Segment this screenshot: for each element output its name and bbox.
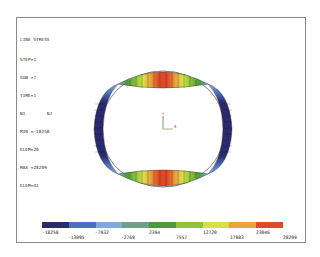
legend-tick: -13095 [68, 235, 85, 240]
legend-tick: 28209 [283, 235, 297, 240]
legend-seg-9 [256, 222, 283, 228]
legend-seg-1 [42, 222, 69, 228]
legend-tick: -2769 [121, 235, 135, 240]
triad-y-label: Y [162, 112, 165, 116]
legend-tick: 17883 [230, 235, 244, 240]
left-compression-band [94, 84, 118, 174]
ring-stress-plot: Y X [0, 0, 320, 257]
bottom-tension-band [118, 170, 208, 186]
triad-x-label: X [174, 124, 177, 129]
contour-legend-bar [42, 222, 283, 228]
legend-tick: -18258 [42, 230, 59, 235]
legend-tick: -7932 [95, 230, 109, 235]
top-tension-band [118, 72, 208, 88]
legend-seg-6 [176, 222, 203, 228]
legend-tick: 7557 [176, 235, 187, 240]
legend-seg-3 [96, 222, 123, 228]
axis-triad-icon [163, 116, 173, 129]
legend-seg-8 [229, 222, 256, 228]
legend-seg-4 [122, 222, 149, 228]
legend-tick: 2394 [149, 230, 160, 235]
right-compression-band [208, 84, 232, 174]
legend-seg-7 [203, 222, 230, 228]
legend-tick: 23046 [256, 230, 270, 235]
legend-seg-5 [149, 222, 176, 228]
legend-seg-2 [69, 222, 96, 228]
legend-tick: 12720 [203, 230, 217, 235]
